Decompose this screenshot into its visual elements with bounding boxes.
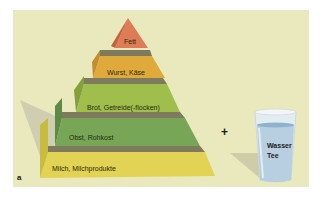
glass-label-tee: Tee xyxy=(267,152,279,159)
plus-sign: + xyxy=(221,125,228,139)
tier-label-fett: Fett xyxy=(124,38,136,45)
tier-brot: Brot, Getreide(-flocken) xyxy=(74,76,180,112)
tier-wurst-kaese: Wurst, Käse xyxy=(92,50,165,78)
tier-label-brot: Brot, Getreide(-flocken) xyxy=(87,104,160,112)
tier-label-milch: Milch, Milchprodukte xyxy=(52,165,116,173)
tier-fett: Fett xyxy=(111,18,148,48)
tier-label-obst: Obst, Rohkost xyxy=(69,134,113,141)
panel-letter: a xyxy=(17,173,21,182)
glass-shadow xyxy=(230,153,262,180)
glass-label-wasser: Wasser xyxy=(267,142,292,149)
tier-label-wurst-kaese: Wurst, Käse xyxy=(107,69,145,76)
food-pyramid-diagram: Milch, Milchprodukte Obst, Rohkost Brot,… xyxy=(0,0,322,197)
glass-of-water-icon: Wasser Tee xyxy=(255,109,296,182)
